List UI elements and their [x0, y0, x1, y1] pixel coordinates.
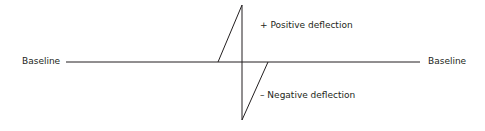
- positive-deflection-label: + Positive deflection: [260, 21, 353, 30]
- baseline-right-label: Baseline: [428, 57, 466, 66]
- deflection-diagram: Baseline Baseline + Positive deflection …: [0, 0, 485, 131]
- waveform-graphic: [0, 0, 485, 131]
- negative-deflection-label: – Negative deflection: [260, 91, 355, 100]
- baseline-left-label: Baseline: [22, 57, 60, 66]
